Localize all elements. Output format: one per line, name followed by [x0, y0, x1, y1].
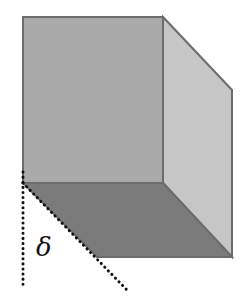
- shear-angle-label: δ: [36, 232, 52, 262]
- sheared-block-diagram: δ: [0, 0, 250, 306]
- front-face: [23, 17, 163, 183]
